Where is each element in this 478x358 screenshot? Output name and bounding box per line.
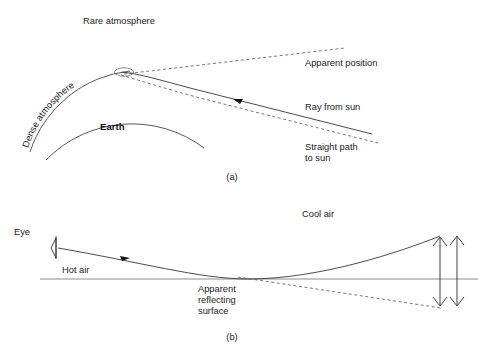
rare-atmosphere-label: Rare atmosphere <box>83 16 155 26</box>
ray-from-sun-label: Ray from sun <box>305 102 360 112</box>
apparent-position-label: Apparent position <box>305 58 377 68</box>
panel-b-caption: (b) <box>226 332 237 342</box>
panel-a-group: Rare atmosphere Earth Apparent position … <box>21 16 378 182</box>
panel-a-caption: (a) <box>226 172 237 182</box>
apparent-reflecting-surface-label-line3: surface <box>198 306 229 316</box>
eye-icon <box>51 238 56 258</box>
cool-air-label: Cool air <box>302 209 334 219</box>
hot-air-label: Hot air <box>62 265 89 275</box>
dense-atmosphere-label: Dense atmosphere <box>21 80 76 149</box>
earth-label: Earth <box>100 121 125 132</box>
mirage-ray-path <box>58 236 440 279</box>
panel-b-group: Eye Cool air Hot air Apparent reflecting… <box>14 209 478 342</box>
dense-atmosphere-label-text: Dense atmosphere <box>21 80 76 149</box>
ray-from-sun-arrowhead <box>233 99 243 104</box>
apparent-reflecting-surface-label-line2: reflecting <box>198 295 236 305</box>
straight-path-to-sun-label-line1: Straight path <box>305 142 358 152</box>
eye-label: Eye <box>14 227 30 237</box>
apparent-ray-dashed <box>238 277 441 308</box>
straight-path-to-sun-label-line2: to sun <box>305 153 330 163</box>
figure-canvas: Rare atmosphere Earth Apparent position … <box>0 0 478 358</box>
refraction-figure: Rare atmosphere Earth Apparent position … <box>0 0 478 358</box>
apparent-reflecting-surface-label-line1: Apparent <box>198 284 236 294</box>
earth-surface-arc <box>46 124 204 160</box>
